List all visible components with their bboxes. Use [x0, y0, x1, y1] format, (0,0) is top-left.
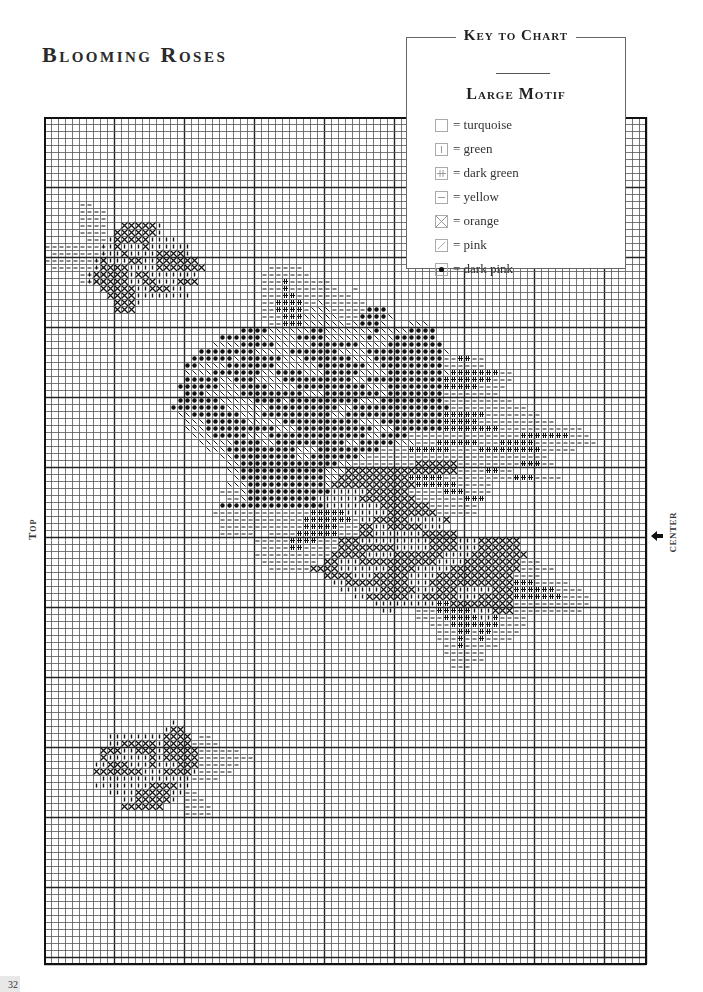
dash-symbol-icon [435, 191, 448, 204]
page-number: 32 [0, 976, 20, 992]
cross-symbol-icon [435, 215, 448, 228]
key-item-label: = green [453, 141, 492, 157]
key-divider [496, 73, 550, 74]
key-item-dark-pink: = dark pink [435, 257, 519, 281]
page-title: Blooming Roses [42, 42, 227, 68]
key-item-label: = yellow [453, 189, 499, 205]
key-title: Key to Chart [456, 27, 576, 44]
dot-symbol-icon [435, 263, 448, 276]
key-item-pink: = pink [435, 233, 519, 257]
side-label-center: CENTER [668, 512, 678, 553]
key-subtitle: Large Motif [407, 85, 625, 103]
side-label-top: Top [26, 519, 38, 540]
key-item-yellow: = yellow [435, 185, 519, 209]
key-item-label: = orange [453, 213, 499, 229]
key-item-green: = green [435, 137, 519, 161]
key-item-orange: = orange [435, 209, 519, 233]
key-item-turquoise: = turquoise [435, 113, 519, 137]
arrow-left-icon [650, 530, 664, 542]
slash-symbol-icon [435, 239, 448, 252]
vbar-symbol-icon [435, 143, 448, 156]
key-item-dark-green: = dark green [435, 161, 519, 185]
key-item-label: = dark pink [453, 261, 513, 277]
key-item-label: = pink [453, 237, 487, 253]
key-item-label: = turquoise [453, 117, 512, 133]
key-legend-list: = turquoise= green= dark green= yellow= … [435, 113, 519, 281]
key-to-chart-box: Key to Chart Large Motif = turquoise= gr… [406, 37, 626, 269]
key-item-label: = dark green [453, 165, 519, 181]
blank-symbol-icon [435, 119, 448, 132]
hash-symbol-icon [435, 167, 448, 180]
